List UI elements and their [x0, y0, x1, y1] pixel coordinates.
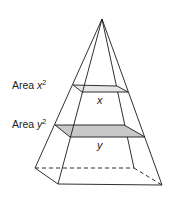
upper-cross-section: [73, 85, 128, 92]
base-edge-left: [35, 168, 58, 184]
hidden-base-edge-right: [134, 168, 162, 185]
lower-cross-section: [55, 125, 145, 137]
upper-side-label: x: [97, 95, 103, 106]
upper-area-label: Area x2: [12, 79, 46, 91]
base-edge-front: [58, 184, 162, 185]
lower-side-label: y: [97, 140, 103, 151]
lower-area-label: Area y2: [12, 118, 46, 130]
pyramid-diagram: [0, 0, 170, 204]
